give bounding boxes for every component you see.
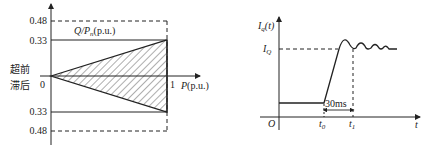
diagram-canvas: 0.48 0.33 0.33 0.48 0 1 超前 滞后 Q/Pn(p.u.)…	[0, 0, 426, 149]
iq-level-label: IQ	[262, 43, 271, 56]
lag-label: 滞后	[10, 80, 30, 91]
origin-label: 0	[40, 79, 45, 90]
y-axis-title-right: Iq(t)	[257, 20, 275, 33]
tick-0.33-lower: 0.33	[30, 106, 48, 117]
tick-0.48-lower: 0.48	[30, 125, 48, 136]
t1-label: t1	[349, 118, 355, 131]
interval-label: 30ms	[325, 98, 347, 109]
x-axis-title: P(p.u.)	[180, 80, 209, 92]
right-chart: 30ms Iq(t) IQ O t0 t1 t	[257, 17, 420, 131]
y-axis-title: Q/Pn(p.u.)	[74, 25, 115, 38]
lead-label: 超前	[10, 63, 30, 75]
tick-0.33-upper: 0.33	[30, 35, 48, 46]
origin-label-right: O	[268, 118, 275, 129]
t0-label: t0	[319, 118, 326, 131]
left-chart: 0.48 0.33 0.33 0.48 0 1 超前 滞后 Q/Pn(p.u.)…	[10, 4, 209, 145]
x-tick-1: 1	[170, 79, 175, 90]
tick-0.48-upper: 0.48	[30, 15, 48, 26]
t-axis-title: t	[415, 119, 418, 130]
